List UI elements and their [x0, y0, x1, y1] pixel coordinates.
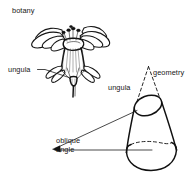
ungula-illustration: botany ungula geometry ungula oblique an…	[0, 0, 193, 179]
label-oblique-line1: oblique	[56, 136, 80, 145]
label-geometry: geometry	[153, 68, 184, 77]
label-oblique-line2: angle	[56, 145, 74, 154]
illustration-canvas: botany ungula geometry ungula oblique an…	[0, 0, 193, 179]
label-ungula-geometry: ungula	[108, 83, 131, 92]
label-botany: botany	[12, 6, 35, 15]
flower-calyx	[70, 77, 77, 87]
label-ungula-botany: ungula	[8, 65, 31, 74]
